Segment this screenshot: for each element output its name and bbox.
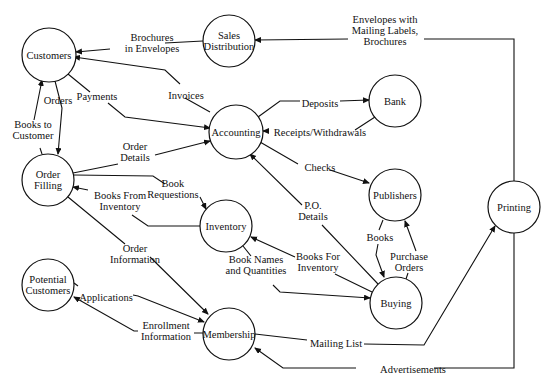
node-label: Sales [218,30,240,41]
node-label: Membership [202,329,255,340]
node-potential-customers: PotentialCustomers [22,259,74,311]
flow-line [376,220,384,277]
node-label: Inventory [206,221,248,232]
flow-label: Receipts/Withdrawals [274,127,366,138]
nodes-layer: CustomersSalesDistributionAccountingBank… [22,15,540,360]
flow-label: Details [298,211,328,222]
node-label: Customers [27,50,72,61]
node-label: Printing [497,202,532,213]
flow-label: Book [162,178,186,189]
node-label: Buying [381,298,413,309]
flow-label: Order [123,141,148,152]
flow-invoices [74,57,210,112]
node-label: Distribution [204,41,256,52]
flow-label: Invoices [168,90,204,101]
node-label: Filling [34,180,63,191]
flow-label: Inventory [298,262,340,273]
flow-label: Envelopes with [352,14,418,25]
flow-label: Books From [94,190,146,201]
flow-line [55,81,62,154]
flow-books [376,220,384,277]
node-printing: Printing [488,181,540,233]
node-label: Bank [384,96,407,107]
flow-label: Purchase [390,251,428,262]
node-label: Order [36,169,61,180]
flow-line [255,226,495,345]
flow-label: Orders [44,95,73,106]
flow-label: Mailing Labels, [352,25,419,36]
flow-label: Requestions [147,189,198,200]
flow-label: P.O. [304,200,322,211]
node-label: Accounting [212,127,262,138]
flow-label: in Envelopes [125,43,180,54]
node-label: Publishers [373,190,417,201]
flow-label: Information [110,254,161,265]
node-customers: Customers [22,28,76,82]
node-buying: Buying [370,277,422,329]
flow-label: Mailing List [310,338,362,349]
flow-label: Books For [296,251,341,262]
node-accounting: Accounting [209,105,263,159]
flow-applications [74,283,204,322]
flow-label: and Quantities [226,265,287,276]
flow-label: Brochures [363,36,406,47]
flow-line [34,80,42,154]
flow-label: Checks [305,162,336,173]
flow-label: Customer [13,130,54,141]
flow-label: Books to [14,119,52,130]
flow-label: Enrollment [142,320,189,331]
node-inventory: Inventory [200,200,252,252]
flow-label: Order [123,243,148,254]
data-flow-diagram: CustomersSalesDistributionAccountingBank… [0,0,555,386]
flow-label: Orders [395,262,424,273]
flow-label: Books [367,232,394,243]
node-bank: Bank [369,75,421,127]
flow-label: Inventory [100,201,142,212]
node-publishers: Publishers [369,169,421,221]
node-sales-distribution: SalesDistribution [203,15,255,67]
node-membership: Membership [202,308,255,360]
node-label: Potential [29,274,66,285]
diagram-canvas: CustomersSalesDistributionAccountingBank… [0,0,555,386]
flow-label: Book Names [229,254,284,265]
flow-label: Brochures [130,32,173,43]
flow-label: Applications [79,292,133,303]
flow-orders [55,81,62,154]
flow-label: Advertisements [380,364,446,375]
flow-mailing-list [255,226,495,345]
node-order-filling: OrderFilling [22,154,74,206]
flow-label: Payments [77,91,118,102]
flow-line [74,283,204,322]
flow-books-to-customer [34,80,42,154]
flow-label: Details [120,152,150,163]
node-label: Customers [26,285,71,296]
flow-line [74,57,210,112]
flow-label: Deposits [302,98,339,109]
flow-label: Information [141,331,192,342]
